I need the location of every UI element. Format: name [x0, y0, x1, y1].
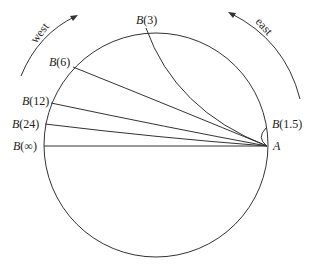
label-a: A: [272, 139, 281, 153]
label-b-6: B(6): [49, 55, 70, 69]
west-label: west: [27, 19, 52, 45]
label-b-24: B(24): [12, 117, 39, 131]
path-b-3: [146, 28, 267, 146]
main-circle: [44, 33, 268, 257]
label-b-3: B(3): [136, 13, 157, 27]
label-b-infinity: B(∞): [13, 139, 37, 153]
path-b-6: [73, 67, 267, 146]
path-b-24: [45, 124, 267, 146]
label-b-1-5: B(1.5): [272, 117, 302, 131]
path-b-12: [51, 103, 267, 146]
label-b-12: B(12): [22, 94, 49, 108]
diagram-canvas: west east B(3) B(6) B(12) B(24) B(∞) B(1…: [0, 0, 316, 272]
path-b-1-5: [261, 128, 267, 146]
east-label: east: [253, 15, 276, 39]
